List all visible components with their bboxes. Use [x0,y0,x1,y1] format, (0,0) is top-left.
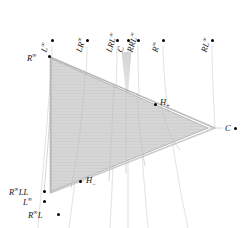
figure-canvas: L∞ LR∞ LRL∞ C RRL∞ R∞ RL∞ R∞ C H+ H− R∞L… [0,0,242,228]
dot-RL-infinity [211,39,214,42]
curve-RL-inf [212,46,215,127]
dot-R-infinity-L [57,213,60,216]
dot-LR-infinity [86,39,89,42]
dot-LRL-infinity [116,39,119,42]
dot-L-infinity [51,39,54,42]
dot-R-infinity-vertex [48,55,51,58]
label-R-infinity-LL: R∞LL [9,186,28,196]
dot-C-right [234,127,237,130]
label-R-infinity-L: R∞L [28,209,43,219]
dot-R-infinity-top [162,39,165,42]
label-H-plus: H+ [160,98,170,109]
diagram-svg [0,0,242,228]
label-C-right: C [225,124,231,133]
label-H-minus: H− [86,176,96,187]
dot-H-plus [154,103,157,106]
label-R-infinity-vertex: R∞ [27,52,37,62]
dot-R-infinity-LL [43,190,46,193]
dot-RRL-infinity [137,39,140,42]
dot-H-minus [79,180,82,183]
label-L-infinity-bottom: L∞ [23,196,32,206]
dot-L-infinity-bottom [43,200,46,203]
